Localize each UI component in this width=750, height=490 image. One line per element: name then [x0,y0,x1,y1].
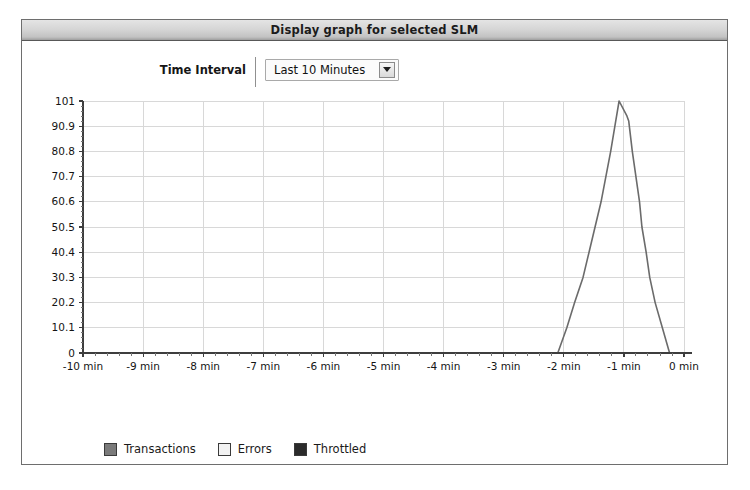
legend-swatch-errors [218,443,231,456]
x-tick-label: -5 min [367,360,401,372]
y-tick-label: 90.9 [52,120,75,132]
chart-legend: Transactions Errors Throttled [104,441,366,457]
y-tick-label: 0 [68,347,75,359]
time-interval-select[interactable]: Last 10 Minutes [265,59,399,81]
legend-item-transactions: Transactions [104,442,196,456]
y-tick-label: 10.1 [52,321,75,333]
time-interval-label: Time Interval [130,63,246,77]
x-tick-label: -4 min [427,360,461,372]
y-tick-label: 30.3 [52,271,75,283]
y-tick-label: 101 [55,95,75,107]
x-tick-label: 0 min [669,360,699,372]
x-tick-label: -10 min [63,360,103,372]
chevron-down-icon[interactable] [379,62,395,78]
y-tick-label: 20.2 [52,296,75,308]
y-tick-label: 80.8 [52,145,75,157]
legend-item-errors: Errors [218,442,272,456]
panel-body: Time Interval Last 10 Minutes 010.120.23… [22,41,727,464]
panel-title: Display graph for selected SLM [22,20,727,41]
controls-divider [255,57,256,87]
x-tick-label: -3 min [487,360,521,372]
legend-label-throttled: Throttled [314,442,366,456]
controls-row: Time Interval Last 10 Minutes [22,57,727,87]
x-tick-label: -2 min [547,360,581,372]
slm-graph-panel: Display graph for selected SLM Time Inte… [21,19,728,465]
x-tick-label: -8 min [186,360,220,372]
x-tick-label: -9 min [126,360,160,372]
slm-line-chart: 010.120.230.340.450.560.670.780.890.9101… [22,91,729,411]
x-tick-label: -1 min [607,360,641,372]
chart-area: 010.120.230.340.450.560.670.780.890.9101… [22,91,729,411]
legend-label-errors: Errors [238,442,272,456]
x-tick-label: -6 min [307,360,341,372]
y-tick-label: 70.7 [52,170,75,182]
y-tick-label: 50.5 [52,221,75,233]
legend-swatch-transactions [104,443,117,456]
legend-label-transactions: Transactions [124,442,196,456]
y-tick-label: 40.4 [52,246,76,258]
legend-item-throttled: Throttled [294,442,366,456]
x-tick-label: -7 min [246,360,280,372]
screenshot-root: Display graph for selected SLM Time Inte… [0,0,750,490]
legend-swatch-throttled [294,443,307,456]
time-interval-selected-value: Last 10 Minutes [274,63,365,77]
y-tick-label: 60.6 [52,195,76,207]
